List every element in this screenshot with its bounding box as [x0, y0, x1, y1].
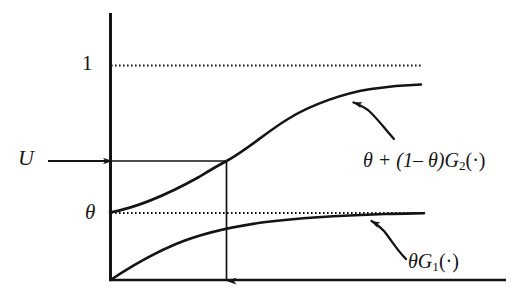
figure-container: 1 θ U θ + (1– θ)G2(·) θG1(·) [0, 0, 521, 300]
curve-theta-g1 [111, 213, 425, 280]
annotation-g2-symbol: G [444, 149, 458, 171]
annotation-g2-index: 2 [459, 158, 466, 173]
tick-label-one: 1 [82, 53, 93, 74]
annotation-label-g1: θG1(·) [408, 251, 459, 271]
annotation-label-g2: θ + (1– θ)G2(·) [363, 150, 486, 170]
annotation-arrow-g2 [354, 103, 395, 140]
annotation-g1-arg: (·) [439, 250, 459, 272]
tick-label-theta: θ [85, 202, 95, 223]
annotation-arrow-g1 [372, 221, 407, 259]
annotation-g1-index: 1 [432, 259, 439, 274]
annotation-g2-prefix: θ + (1– θ) [363, 149, 444, 171]
annotation-g1-symbol: G [418, 250, 432, 272]
input-label-u: U [18, 147, 34, 169]
annotation-g1-prefix: θ [408, 250, 418, 272]
annotation-g2-arg: (·) [466, 149, 486, 171]
